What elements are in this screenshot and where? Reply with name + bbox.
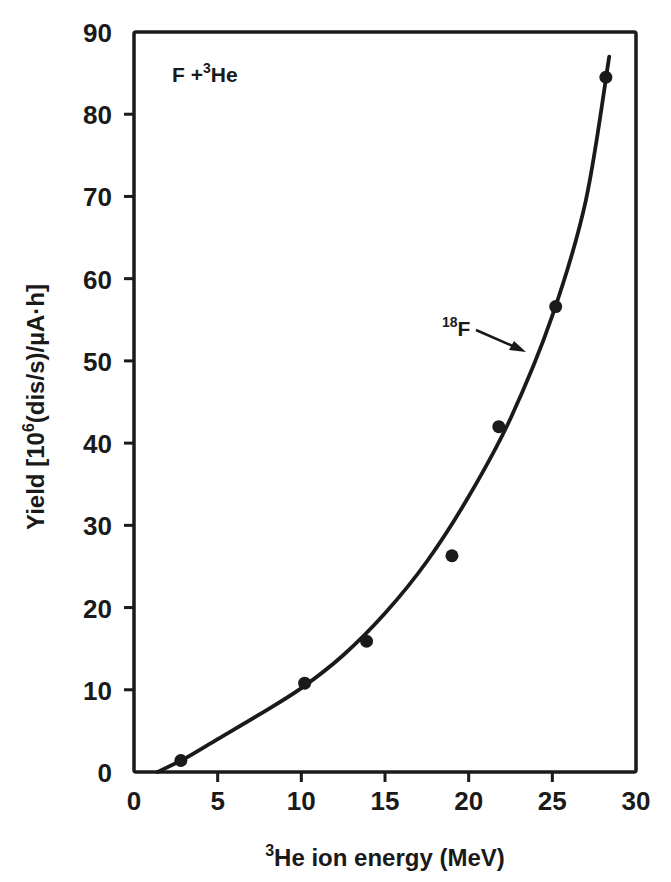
y-axis-title: Yield [106(dis/s)/µA·h]: [20, 284, 49, 530]
x-tick-label: 30: [622, 786, 651, 816]
y-tick-label: 10: [83, 676, 112, 706]
y-tick-label: 80: [83, 100, 112, 130]
data-point: [445, 549, 458, 562]
x-tick-labels: 051015202530: [127, 786, 651, 816]
x-tick-label: 5: [210, 786, 224, 816]
x-tick-label: 20: [454, 786, 483, 816]
y-tick-label: 90: [83, 18, 112, 48]
x-axis-title: 3He ion energy (MeV): [265, 842, 505, 871]
y-tick-label: 60: [83, 265, 112, 295]
plot-frame: [134, 32, 636, 772]
fit-curve: [157, 57, 609, 772]
y-tick-label: 0: [98, 758, 112, 788]
data-point: [599, 71, 612, 84]
y-tick-labels: 0102030405060708090: [83, 18, 112, 788]
y-tick-label: 70: [83, 182, 112, 212]
arrow-icon: [476, 330, 526, 352]
data-point: [492, 420, 505, 433]
data-points: [174, 71, 612, 767]
yield-chart: F +3He 18F 051015202530 0102030405060708…: [0, 0, 671, 882]
y-tick-label: 30: [83, 511, 112, 541]
reaction-label: F +3He: [172, 60, 238, 86]
x-tick-label: 25: [538, 786, 567, 816]
y-tick-label: 20: [83, 594, 112, 624]
x-tick-label: 10: [287, 786, 316, 816]
data-point: [360, 635, 373, 648]
data-point: [174, 754, 187, 767]
x-tick-label: 0: [127, 786, 141, 816]
y-tick-label: 40: [83, 429, 112, 459]
data-point: [549, 300, 562, 313]
isotope-label: 18F: [442, 314, 471, 340]
data-point: [298, 677, 311, 690]
x-tick-label: 15: [371, 786, 400, 816]
y-tick-label: 50: [83, 347, 112, 377]
